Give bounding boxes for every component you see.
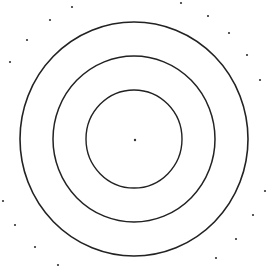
center-dot-group xyxy=(134,139,136,141)
scatter-dot xyxy=(215,257,217,259)
diagram-svg xyxy=(0,0,268,267)
concentric-circles-diagram xyxy=(0,0,268,267)
center-dot xyxy=(134,139,136,141)
outer-ring xyxy=(20,22,248,256)
scatter-dot xyxy=(71,6,73,8)
scatter-dot xyxy=(26,39,28,41)
scatter-dot xyxy=(2,200,4,202)
scatter-dot xyxy=(14,224,16,226)
rings-group xyxy=(20,22,248,256)
scatter-dot xyxy=(57,264,59,266)
scatter-dots-group xyxy=(2,2,266,266)
scatter-dot xyxy=(228,32,230,34)
scatter-dot xyxy=(9,61,11,63)
scatter-dot xyxy=(207,15,209,17)
scatter-dot xyxy=(49,19,51,21)
scatter-dot xyxy=(235,238,237,240)
middle-ring xyxy=(53,56,215,222)
scatter-dot xyxy=(252,214,254,216)
scatter-dot xyxy=(259,79,261,81)
scatter-dot xyxy=(180,2,182,4)
scatter-dot xyxy=(34,246,36,248)
scatter-dot xyxy=(246,54,248,56)
scatter-dot xyxy=(264,190,266,192)
inner-ring xyxy=(86,90,182,188)
